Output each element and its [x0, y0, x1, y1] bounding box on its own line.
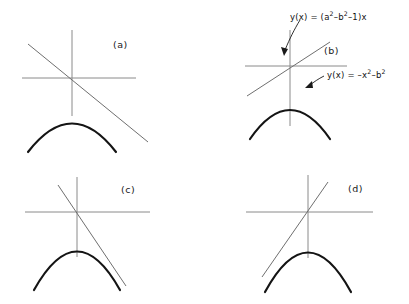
panel-b-line-leader-arrow — [281, 47, 288, 56]
parabola-equation-label: y(x) = –x2–b2 — [327, 70, 386, 80]
figure-graphics — [0, 0, 409, 304]
parabola-equation-prefix: y(x) = –x — [327, 70, 367, 80]
panel-label-d: (d) — [348, 183, 363, 194]
panel-b-line-leader — [285, 20, 300, 50]
panel-label-b: (b) — [324, 45, 339, 56]
panel-d-parabola — [265, 253, 351, 293]
panel-c-line — [58, 185, 126, 286]
panel-a-parabola — [28, 124, 116, 153]
figure-canvas: (a) (b) (c) (d) y(x) = (a2–b2–1)x y(x) =… — [0, 0, 409, 304]
line-equation-prefix: y(x) = (a — [290, 12, 330, 22]
line-equation-suffix: –1)x — [348, 12, 367, 22]
parabola-equation-mid: –b — [371, 70, 381, 80]
panel-label-c: (c) — [121, 184, 135, 195]
panel-b-line — [247, 42, 330, 96]
panel-d-line — [262, 182, 328, 277]
panel-label-a: (a) — [113, 39, 128, 50]
panel-b-parabola-leader-arrow — [305, 81, 313, 88]
parabola-equation-exponent-2: 2 — [382, 68, 386, 75]
panel-a — [22, 30, 148, 152]
line-equation-label: y(x) = (a2–b2–1)x — [290, 12, 367, 22]
line-equation-mid: –b — [334, 12, 344, 22]
